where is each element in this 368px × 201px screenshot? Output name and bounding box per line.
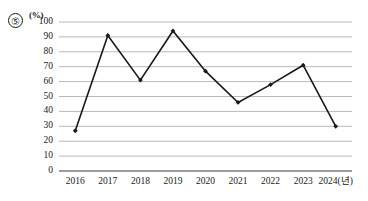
x-axis-tick-label: 2018 — [131, 177, 150, 187]
x-axis-tick-label: 2024(년) — [319, 177, 353, 187]
y-axis-tick-label: 100 — [27, 17, 53, 27]
x-axis-tick-label: 2023 — [294, 177, 313, 187]
gridlines-group — [59, 22, 352, 156]
y-axis-tick-label: 0 — [27, 166, 53, 176]
x-axis-tick-label: 2022 — [261, 177, 280, 187]
data-point-marker — [73, 128, 78, 133]
y-axis-tick-label: 80 — [27, 47, 53, 57]
y-axis-tick-label: 30 — [27, 121, 53, 131]
data-series-group — [73, 29, 338, 134]
y-axis-tick-label: 50 — [27, 92, 53, 102]
x-axis-tick-label: 2019 — [163, 177, 182, 187]
data-line — [75, 31, 335, 131]
chart-plot-area — [0, 0, 368, 201]
x-axis-tick-label: 2017 — [98, 177, 117, 187]
x-axis-tick-label: 2021 — [229, 177, 248, 187]
x-axis-tick-label: 2016 — [66, 177, 85, 187]
y-axis-tick-label: 10 — [27, 151, 53, 161]
y-axis-tick-label: 70 — [27, 62, 53, 72]
x-axis-tick-label: 2020 — [196, 177, 215, 187]
y-axis-tick-label: 90 — [27, 32, 53, 42]
chart-figure: ⑤ (%) 0102030405060708090100 20162017201… — [0, 0, 368, 201]
y-axis-tick-label: 60 — [27, 77, 53, 87]
data-markers-group — [73, 29, 338, 134]
y-axis-tick-label: 20 — [27, 136, 53, 146]
y-axis-tick-label: 40 — [27, 106, 53, 116]
